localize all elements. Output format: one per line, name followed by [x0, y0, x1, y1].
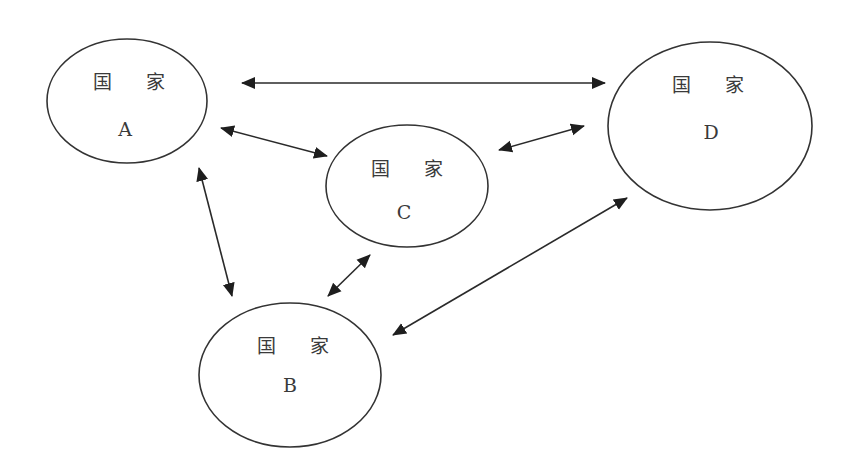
node-c-letter: C	[397, 201, 412, 223]
diagram-canvas: 国 家 A 国 家 D 国 家 C 国 家 B	[0, 0, 843, 474]
node-d-title: 国 家	[672, 74, 758, 96]
node-c-title: 国 家	[371, 158, 457, 180]
node-a-title: 国 家	[93, 71, 179, 93]
arrow-c-d	[499, 126, 584, 150]
node-a-letter: A	[117, 118, 132, 140]
node-country-d: 国 家 D	[608, 42, 812, 210]
node-country-a: 国 家 A	[47, 39, 207, 163]
arrow-a-c	[221, 128, 327, 156]
arrow-c-b	[328, 255, 370, 296]
ellipse-a	[47, 39, 207, 163]
node-country-c: 国 家 C	[326, 125, 488, 247]
country-relations-diagram: 国 家 A 国 家 D 国 家 C 国 家 B	[0, 0, 843, 474]
node-b-letter: B	[283, 374, 297, 396]
node-b-title: 国 家	[257, 335, 343, 357]
arrow-b-d	[393, 198, 627, 335]
ellipse-c	[326, 125, 488, 247]
node-d-letter: D	[703, 121, 718, 143]
node-country-b: 国 家 B	[199, 303, 381, 447]
arrow-a-b	[199, 168, 232, 296]
